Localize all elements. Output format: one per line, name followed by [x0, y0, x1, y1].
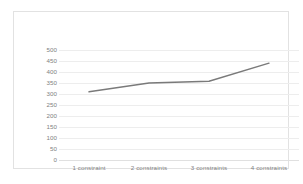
x-tick-label-3: 3 constraints [179, 164, 239, 176]
x-tick-label-1: 1 constraint [59, 164, 119, 176]
y-tick-label-150: 150 [27, 124, 57, 130]
plot-area [59, 50, 299, 160]
x-tick-label-2: 2 constraints [119, 164, 179, 176]
y-tick-label-500: 500 [27, 47, 57, 53]
y-tick-label-250: 250 [27, 102, 57, 108]
x-axis: 1 constraint2 constraints3 constraints4 … [59, 164, 299, 176]
x-tick-label-4: 4 constraints [239, 164, 299, 176]
line-chart-figure: 050100150200250300350400450500 1 constra… [0, 0, 303, 184]
y-tick-label-350: 350 [27, 80, 57, 86]
chart-frame: 050100150200250300350400450500 1 constra… [13, 11, 289, 169]
series-1-line [89, 63, 269, 92]
y-tick-label-400: 400 [27, 69, 57, 75]
y-axis: 050100150200250300350400450500 [27, 50, 57, 160]
y-tick-label-300: 300 [27, 91, 57, 97]
y-tick-label-50: 50 [27, 146, 57, 152]
y-tick-label-200: 200 [27, 113, 57, 119]
y-tick-label-0: 0 [27, 157, 57, 163]
gridline-0 [59, 160, 299, 161]
y-tick-label-450: 450 [27, 58, 57, 64]
y-tick-label-100: 100 [27, 135, 57, 141]
series-line-layer [59, 50, 299, 160]
